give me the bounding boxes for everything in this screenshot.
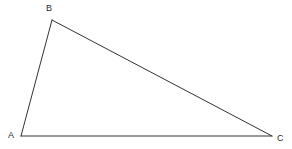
vertex-label-c: C [277, 134, 284, 143]
vertex-label-a: A [8, 131, 14, 140]
vertex-label-b: B [46, 4, 52, 13]
edge-bc [52, 20, 272, 136]
edge-ab [21, 20, 52, 136]
triangle-shape [0, 0, 292, 149]
triangle-diagram: A B C [0, 0, 292, 149]
